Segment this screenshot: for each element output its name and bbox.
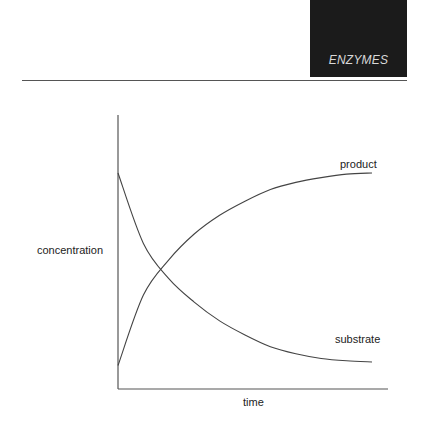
substrate-label: substrate — [335, 333, 380, 345]
concentration-time-chart — [0, 0, 427, 422]
x-axis-label: time — [243, 396, 264, 408]
product-line — [118, 173, 372, 366]
y-axis-label: concentration — [37, 244, 103, 256]
product-label: product — [340, 158, 377, 170]
